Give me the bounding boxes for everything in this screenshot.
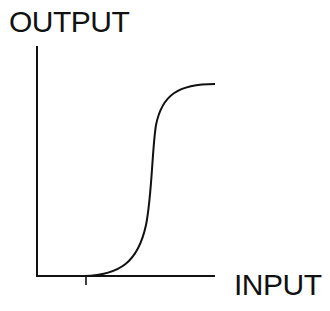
sigmoid-curve <box>84 84 215 276</box>
sigmoid-chart <box>0 0 330 311</box>
